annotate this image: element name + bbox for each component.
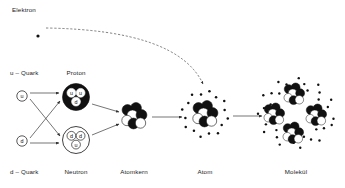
neutron-group: ddu — [63, 127, 90, 154]
molekuel-electron-dot-3 — [318, 139, 320, 141]
molekuel-electron-dot-4 — [310, 138, 312, 140]
molekuel-electron-dot-28 — [318, 91, 320, 93]
neutron-quark-u-2-symbol: u — [75, 142, 78, 148]
atom-electron-dot-10 — [187, 102, 190, 105]
molekuel-electron-dot-31 — [327, 106, 329, 108]
label-u-quark: u – Quark — [10, 70, 39, 76]
atom-group — [181, 90, 229, 138]
proton-quark-d-2-symbol: d — [75, 99, 78, 105]
atomkern-group — [122, 103, 147, 129]
label-atom: Atom — [197, 169, 212, 175]
neutron-quark-d-0-symbol: d — [70, 133, 73, 139]
atom-electron-dot-15 — [223, 100, 226, 103]
atom-electron-dot-5 — [199, 136, 202, 139]
molekuel-atom-2-nucleon-6 — [317, 116, 326, 125]
molekuel-electron-dot-19 — [270, 92, 272, 94]
atom-electron-dot-11 — [191, 94, 194, 97]
free-electron-group — [36, 34, 39, 37]
free-quark-group: ud — [17, 91, 27, 146]
molekuel-electron-dot-21 — [277, 81, 279, 83]
label-atomkern: Atomkern — [120, 169, 148, 175]
molekuel-electron-dot-27 — [317, 83, 319, 85]
atom-electron-dot-6 — [193, 129, 196, 132]
label-neutron: Neutron — [64, 169, 87, 175]
label-proton: Proton — [66, 70, 85, 76]
atom-nucleus-nucleon-6 — [206, 116, 216, 126]
u-quark-symbol: u — [21, 93, 24, 99]
molekuel-electron-dot-25 — [303, 83, 305, 85]
neutron-quark-d-1-symbol: d — [79, 133, 82, 139]
d-quark-symbol: d — [21, 138, 24, 144]
atom-electron-dot-14 — [215, 96, 218, 99]
atom-electron-dot-8 — [184, 117, 187, 120]
molekuel-electron-dot-18 — [262, 94, 264, 96]
molekuel-electron-dot-30 — [330, 99, 332, 101]
atom-electron-dot-4 — [208, 132, 211, 135]
atomkern-nucleon-6 — [135, 118, 145, 128]
diagram-canvas: ud uud ddu — [0, 0, 345, 188]
arrow-neutron-to-kern — [92, 124, 119, 135]
molekuel-atom-0-nucleon-6 — [275, 115, 284, 124]
electron-dot-icon — [36, 34, 39, 37]
molekuel-electron-dot-2 — [315, 128, 317, 130]
molekuel-electron-dot-15 — [257, 112, 259, 114]
atom-electron-dot-0 — [223, 109, 226, 112]
atom-electron-dot-7 — [185, 126, 188, 128]
arrow-u-to-neutron — [30, 99, 60, 136]
arrow-d-to-proton — [30, 101, 60, 138]
label-elektron: Elektron — [12, 7, 36, 13]
molekuel-electron-dot-33 — [332, 118, 334, 120]
atom-electron-dot-9 — [181, 108, 184, 111]
label-molekuel: Molekül — [285, 169, 307, 175]
atom-electron-dot-1 — [227, 117, 230, 120]
atom-electron-dot-12 — [200, 93, 203, 96]
molekuel-electron-dot-10 — [276, 136, 278, 138]
molekuel-group — [257, 77, 335, 149]
molekuel-electron-dot-13 — [265, 123, 267, 125]
molekuel-electron-dot-24 — [298, 77, 300, 79]
molekuel-electron-dot-5 — [303, 136, 305, 138]
molekuel-electron-dot-9 — [279, 143, 281, 145]
arrow-proton-to-kern — [92, 104, 119, 112]
atom-structure-diagram: ud uud ddu Elektron u – Quark d – Quark … — [0, 0, 345, 188]
atom-electron-dot-13 — [208, 90, 211, 93]
molekuel-electron-dot-1 — [323, 127, 325, 129]
molekuel-electron-dot-20 — [278, 92, 280, 94]
molekuel-electron-dot-6 — [299, 147, 301, 149]
molekuel-electron-dot-26 — [306, 89, 308, 91]
proton-quark-u-0-symbol: u — [70, 90, 73, 96]
label-d-quark: d – Quark — [10, 169, 39, 175]
molekuel-electron-dot-0 — [331, 124, 333, 126]
molekuel-electron-dot-12 — [263, 131, 265, 133]
proton-group: uud — [63, 84, 90, 111]
atom-electron-dot-3 — [217, 132, 220, 135]
atom-electron-dot-2 — [220, 124, 223, 127]
proton-quark-u-1-symbol: u — [79, 90, 82, 96]
molekuel-atom-1-nucleon-6 — [295, 95, 304, 104]
molekuel-atom-3-nucleon-6 — [294, 134, 303, 143]
molekuel-electron-dot-11 — [275, 129, 277, 131]
molekuel-electron-dot-29 — [317, 98, 319, 100]
